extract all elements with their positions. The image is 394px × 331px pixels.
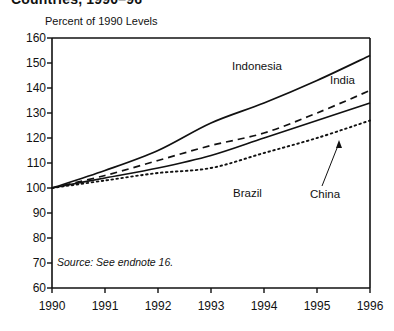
series-line-brazil <box>52 103 370 188</box>
y-tick-label: 60 <box>12 281 46 295</box>
x-tick-label: 1990 <box>30 299 74 313</box>
series-lines <box>52 56 370 189</box>
x-tick-label: 1992 <box>136 299 180 313</box>
x-tick-label: 1994 <box>242 299 286 313</box>
figure: Countries, 1990–96 Percent of 1990 Level… <box>0 0 394 331</box>
y-tick-label: 70 <box>12 256 46 270</box>
source-note: Source: See endnote 16. <box>57 256 173 268</box>
x-tick-label: 1996 <box>348 299 392 313</box>
series-label-indonesia: Indonesia <box>232 60 282 72</box>
x-tick-label: 1995 <box>295 299 339 313</box>
y-tick-label: 90 <box>12 206 46 220</box>
y-tick-label: 130 <box>12 106 46 120</box>
y-tick-label: 110 <box>12 156 46 170</box>
y-tick-label: 140 <box>12 81 46 95</box>
y-tick-label: 120 <box>12 131 46 145</box>
series-label-india: India <box>330 74 355 86</box>
series-line-china <box>52 121 370 189</box>
y-tick-label: 100 <box>12 181 46 195</box>
x-tick-label: 1993 <box>189 299 233 313</box>
y-tick-label: 150 <box>12 56 46 70</box>
series-line-india <box>52 91 370 189</box>
china-leader-line <box>322 140 342 186</box>
y-tick-label: 80 <box>12 231 46 245</box>
chart-canvas <box>0 0 394 331</box>
x-tick-label: 1991 <box>83 299 127 313</box>
y-tick-label: 160 <box>12 31 46 45</box>
series-label-china: China <box>310 188 340 200</box>
plot-frame <box>52 38 370 288</box>
series-label-brazil: Brazil <box>233 187 262 199</box>
